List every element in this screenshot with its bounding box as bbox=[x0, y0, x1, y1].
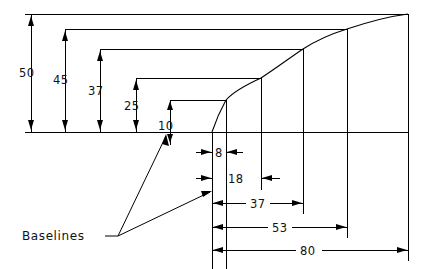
vertical-dimension-37: 37 bbox=[88, 49, 103, 132]
arrow-50-top bbox=[28, 16, 34, 26]
arrow-25-top bbox=[133, 80, 139, 90]
dim-value-18: 18 bbox=[228, 172, 243, 186]
arrow-18-right bbox=[262, 175, 272, 181]
dimension-drawing-svg: 50 45 37 25 10 bbox=[0, 0, 428, 269]
horizontal-extension-lines bbox=[65, 29, 347, 100]
dim-value-53: 53 bbox=[272, 221, 287, 235]
vertical-dimension-45: 45 bbox=[53, 29, 68, 132]
dim-value-37-horizontal: 37 bbox=[250, 197, 265, 211]
dim-value-50: 50 bbox=[19, 66, 34, 80]
leader-arrow-bottom bbox=[201, 191, 212, 197]
arrow-80-right bbox=[397, 247, 407, 253]
dim-value-10: 10 bbox=[158, 119, 173, 133]
dim-value-37-vertical: 37 bbox=[88, 84, 103, 98]
dim-value-8: 8 bbox=[215, 146, 223, 160]
vertical-dimension-50: 50 bbox=[19, 14, 34, 132]
horizontal-dimension-18: 18 bbox=[196, 172, 280, 186]
dim-value-80: 80 bbox=[300, 244, 315, 258]
arrow-37h-left bbox=[213, 200, 223, 206]
vertical-extension-lines bbox=[212, 14, 408, 269]
vertical-dimension-25: 25 bbox=[124, 78, 139, 132]
arrow-18-left bbox=[201, 175, 211, 181]
baselines-callout: Baselines bbox=[22, 134, 212, 243]
leader-line-to-top-baseline bbox=[118, 136, 166, 236]
arrow-80-left bbox=[213, 247, 223, 253]
arrow-8-right bbox=[227, 149, 237, 155]
horizontal-dimension-8: 8 bbox=[196, 146, 243, 160]
baselines-label: Baselines bbox=[22, 229, 85, 243]
arrow-45-bottom bbox=[62, 120, 68, 130]
dim-value-25: 25 bbox=[124, 99, 139, 113]
leader-line-to-bottom-baseline bbox=[118, 192, 210, 236]
arrow-37h-right bbox=[292, 200, 302, 206]
arrow-8-left bbox=[201, 149, 211, 155]
technical-drawing-canvas: 50 45 37 25 10 bbox=[0, 0, 428, 269]
arrow-25-bottom bbox=[133, 120, 139, 130]
baseline-group bbox=[25, 14, 408, 132]
horizontal-dimension-53: 53 bbox=[212, 219, 347, 235]
profile-curve-group bbox=[212, 14, 408, 132]
arrow-10-top bbox=[167, 101, 173, 110]
horizontal-dimension-80: 80 bbox=[212, 242, 408, 258]
arrow-50-bottom bbox=[28, 120, 34, 130]
arrow-45-top bbox=[62, 31, 68, 41]
profile-curve bbox=[212, 14, 408, 132]
arrow-53-left bbox=[213, 224, 223, 230]
arrow-37-bottom bbox=[97, 120, 103, 130]
arrow-37-top bbox=[97, 51, 103, 61]
dim-value-45: 45 bbox=[53, 73, 68, 87]
arrow-53-right bbox=[336, 224, 346, 230]
